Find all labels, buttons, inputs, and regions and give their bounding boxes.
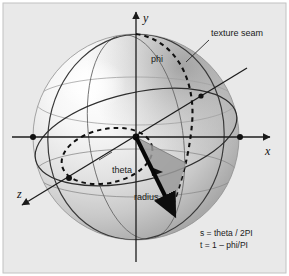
x-axis-label: x — [264, 144, 271, 158]
texture-seam-label: texture seam — [211, 28, 263, 38]
formula-line-1: s = theta / 2PI — [200, 228, 253, 238]
z-axis-far-dot — [198, 93, 203, 98]
spherical-coordinates-figure: y x z texture seam phi theta radius s = … — [0, 0, 289, 276]
x-axis-positive-dot — [237, 134, 243, 140]
y-axis-label: y — [142, 11, 149, 25]
theta-label: theta — [112, 165, 132, 175]
radius-label: radius — [134, 192, 159, 202]
diagram-canvas: y x z texture seam phi theta radius s = … — [0, 0, 289, 276]
sphere-specular-highlight — [58, 58, 126, 110]
phi-label: phi — [151, 54, 163, 64]
formula-line-2: t = 1 – phi/PI — [200, 240, 248, 250]
z-axis-label: z — [16, 187, 22, 201]
x-axis-negative-dot — [30, 134, 36, 140]
